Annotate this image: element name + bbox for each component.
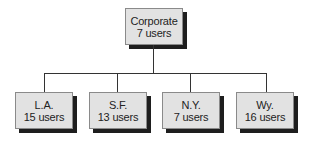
node-wy: Wy. 16 users — [236, 92, 294, 129]
node-la: L.A. 15 users — [15, 92, 73, 129]
node-name: L.A. — [35, 99, 54, 111]
node-name: S.F. — [109, 99, 127, 111]
node-ny: N.Y. 7 users — [162, 92, 220, 129]
connector-ny — [190, 73, 191, 92]
node-sf: S.F. 13 users — [89, 92, 147, 129]
node-users: 7 users — [137, 27, 172, 39]
node-name: Corporate — [130, 15, 177, 27]
node-users: 7 users — [174, 111, 209, 123]
node-users: 15 users — [24, 111, 65, 123]
node-name: Wy. — [256, 99, 273, 111]
connector-wy — [266, 73, 267, 92]
node-name: N.Y. — [181, 99, 200, 111]
node-users: 16 users — [245, 111, 286, 123]
connector-la — [44, 73, 45, 92]
connector-trunk — [153, 45, 154, 73]
connector-sf — [117, 73, 118, 92]
node-users: 13 users — [98, 111, 139, 123]
node-corporate: Corporate 7 users — [125, 8, 183, 45]
connector-bus — [44, 73, 267, 74]
